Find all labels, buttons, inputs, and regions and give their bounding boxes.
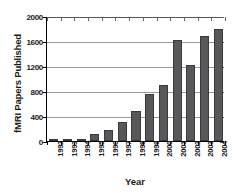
y-axis-tick-label: 400: [31, 113, 43, 122]
bar: [145, 94, 154, 141]
x-axis-tick-label: 1994: [83, 141, 92, 173]
x-axis-tick-label: 1992: [56, 141, 65, 173]
bar: [90, 134, 99, 142]
x-axis-tick-label: 2001: [179, 141, 188, 173]
x-axis-tick-label: 2000: [165, 141, 174, 173]
y-axis-tick-labels: 0400800120016002000: [17, 16, 43, 142]
x-axis-tick-label: 1995: [97, 141, 106, 173]
y-axis-tick-label: 1600: [26, 38, 43, 47]
x-axis-tick-label: 1996: [111, 141, 120, 173]
bar-series: [47, 17, 224, 141]
y-axis-tick-label: 800: [31, 88, 43, 97]
bar: [118, 122, 127, 141]
bar: [173, 40, 182, 141]
x-axis-tick-label: 2004: [220, 141, 229, 173]
x-axis-tick-label: 1999: [152, 141, 161, 173]
x-axis-tick-label: 2003: [206, 141, 215, 173]
plot-area: [46, 17, 224, 142]
bar: [104, 130, 113, 141]
bar: [214, 29, 223, 141]
x-axis-tick-label: 1997: [124, 141, 133, 173]
bar-chart-figure: fMRI Papers Published 040080012001600200…: [0, 0, 249, 193]
x-axis-tick-label: 1998: [138, 141, 147, 173]
top-tick-mark: [225, 17, 226, 21]
bar: [200, 36, 209, 141]
bar: [186, 65, 195, 141]
x-axis-tick-labels: 1992199319941995199619971998199920002001…: [46, 143, 224, 175]
x-axis-title: Year: [46, 176, 224, 187]
x-axis-tick-label: 1993: [70, 141, 79, 173]
bar: [131, 111, 140, 141]
y-axis-tick-label: 2000: [26, 13, 43, 22]
y-axis-tick-label: 1200: [26, 63, 43, 72]
bar: [159, 85, 168, 141]
x-axis-tick-label: 2002: [193, 141, 202, 173]
